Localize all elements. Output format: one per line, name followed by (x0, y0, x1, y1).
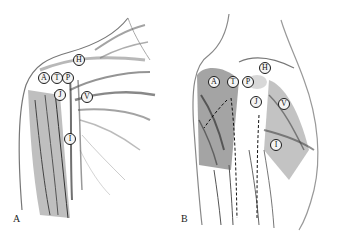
marker-i: I (270, 139, 282, 151)
marker-j: J (54, 89, 66, 101)
panel-letter-b: B (181, 213, 188, 224)
marker-p: P (62, 72, 74, 84)
marker-t: T (227, 76, 239, 88)
marker-i: I (64, 133, 76, 145)
marker-h: H (259, 62, 271, 74)
anatomical-figure: A H A T P J V I (0, 0, 338, 242)
marker-a: A (208, 76, 220, 88)
panel-a: A H A T P J V I (0, 0, 169, 242)
panel-letter-a: A (13, 213, 20, 224)
marker-j: J (250, 96, 262, 108)
marker-v: V (81, 91, 93, 103)
marker-v: V (278, 98, 290, 110)
marker-a: A (38, 72, 50, 84)
marker-p: P (242, 76, 254, 88)
panel-b: B H A T P J V I (169, 0, 338, 242)
shoulder-anterior-drawing (0, 0, 169, 242)
shoulder-posterior-drawing (169, 0, 338, 242)
marker-h: H (73, 54, 85, 66)
